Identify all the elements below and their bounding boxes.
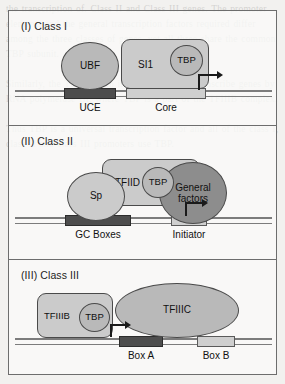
box-a-label: Box A [117, 350, 165, 361]
box-b-label: Box B [192, 350, 240, 361]
sp-protein: Sp [67, 172, 125, 221]
transcription-start-arrow [110, 324, 134, 337]
panel-class-iii: (III) Class III Box A Box B TFIIIB TBP T… [9, 259, 276, 373]
gc-boxes-label: GC Boxes [55, 229, 141, 240]
figure-container: (I) Class I UCE Core SI1 TBP UBF (II) Cl… [8, 10, 277, 375]
uce-label: UCE [64, 102, 116, 113]
initiator-label: Initiator [159, 229, 219, 240]
transcription-start-arrow [185, 202, 211, 216]
tbp-label: TBP [177, 55, 195, 65]
tfiiib-label: TFIIIB [44, 310, 70, 321]
panel-title-class-ii: (II) Class II [21, 135, 73, 147]
tbp-subunit: TBP [79, 303, 110, 332]
ubf-label: UBF [80, 61, 100, 72]
transcription-start-arrow [198, 74, 226, 90]
panel-title-class-i: (I) Class I [21, 20, 67, 32]
dna-strand [15, 217, 272, 224]
tfiiic-label: TFIIIC [163, 305, 191, 316]
panel-class-ii: (II) Class II GC Boxes Initiator TFIID S… [9, 125, 276, 259]
sl1-label: SI1 [138, 59, 153, 70]
core-element [126, 88, 206, 99]
sp-label: Sp [90, 191, 102, 202]
tbp-label: TBP [85, 312, 103, 322]
box-b-element [197, 336, 235, 347]
panel-title-class-iii: (III) Class III [21, 269, 79, 281]
tbp-subunit: TBP [142, 167, 174, 198]
tbp-subunit: TBP [170, 45, 203, 76]
ubf-protein: UBF [61, 42, 119, 90]
tbp-label: TBP [149, 177, 167, 187]
box-a-element [119, 336, 163, 347]
core-label: Core [126, 102, 206, 113]
panel-class-i: (I) Class I UCE Core SI1 TBP UBF [9, 11, 276, 125]
